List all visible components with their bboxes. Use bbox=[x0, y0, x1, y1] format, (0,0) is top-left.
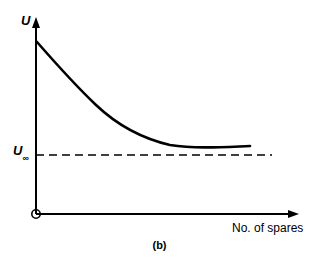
asymptote-label-subscript: ∞ bbox=[22, 153, 28, 163]
x-axis-label: No. of spares bbox=[232, 222, 303, 234]
x-axis-arrow-icon bbox=[288, 210, 299, 218]
y-axis-arrow-icon bbox=[32, 17, 40, 28]
asymptote-label: U∞ bbox=[13, 144, 29, 161]
asymptote-label-base: U bbox=[13, 143, 22, 158]
y-axis-label: U bbox=[21, 14, 30, 27]
figure-caption: (b) bbox=[0, 240, 319, 251]
data-curve bbox=[37, 42, 250, 147]
figure-container: U U∞ No. of spares (b) bbox=[0, 0, 319, 266]
